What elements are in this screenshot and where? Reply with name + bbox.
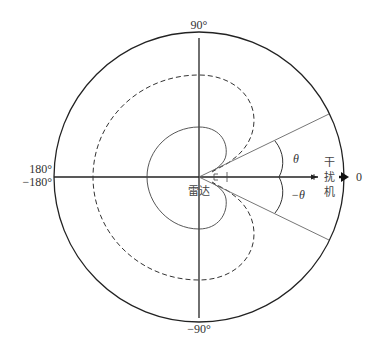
theta-arc-negative: [275, 177, 283, 213]
label-neg180: −180°: [22, 175, 52, 189]
label-neg-theta: −θ: [291, 188, 305, 202]
label-jammer-1: 干: [324, 156, 335, 169]
ray-negative-theta: [199, 177, 329, 240]
label-jammer-3: 机: [324, 185, 335, 199]
label-jammer-2: 扰: [324, 170, 335, 184]
arrow-head-small-icon: [311, 175, 318, 180]
label-90: 90°: [191, 18, 208, 32]
label-theta: θ: [293, 152, 299, 166]
label-radar: 雷达: [188, 185, 210, 198]
label-zero: 0: [356, 170, 362, 184]
label-180: 180°: [29, 162, 52, 176]
ray-positive-theta: [199, 114, 329, 177]
label-neg90: −90°: [187, 322, 211, 336]
arrow-head-large-icon: [341, 172, 349, 182]
theta-arc-positive: [275, 141, 283, 177]
polar-diagram: 90° −90° 180° −180° 0 θ −θ 雷达 干 扰 机: [0, 0, 378, 351]
